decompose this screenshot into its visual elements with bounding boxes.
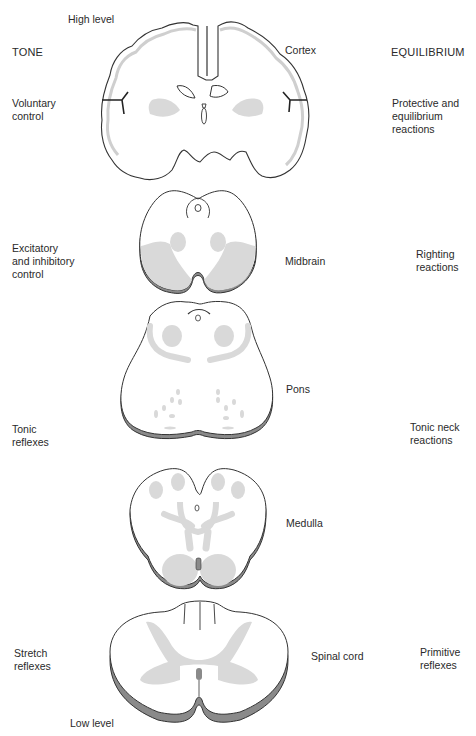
structure-cortex-label: Cortex [285,44,316,57]
medulla-section [130,469,266,589]
equilibrium-tonic-neck-reactions: Tonic neck reactions [410,421,460,447]
high-level-label: High level [68,13,114,26]
structure-pons-label: Pons [286,383,310,396]
equilibrium-column-header: EQUILIBRIUM [391,46,465,59]
equilibrium-protective-reactions: Protective and equilibrium reactions [392,97,459,136]
equilibrium-primitive-reflexes: Primitive reflexes [420,646,460,672]
spinal-cord-section [110,601,288,722]
tone-column-header: TONE [12,46,43,59]
tone-excitatory-inhibitory: Excitatory and inhibitory control [12,242,74,281]
tone-tonic-reflexes: Tonic reflexes [12,423,49,449]
tone-voluntary-control: Voluntary control [12,97,56,123]
tone-stretch-reflexes: Stretch reflexes [14,647,51,673]
structure-medulla-label: Medulla [286,517,323,530]
equilibrium-righting-reactions: Righting reactions [416,248,459,274]
structure-spinal-cord-label: Spinal cord [311,650,364,663]
cortex-section [101,22,308,180]
midbrain-section [140,191,257,294]
structure-midbrain-label: Midbrain [285,255,325,268]
pons-section [121,301,273,438]
low-level-label: Low level [70,717,114,730]
